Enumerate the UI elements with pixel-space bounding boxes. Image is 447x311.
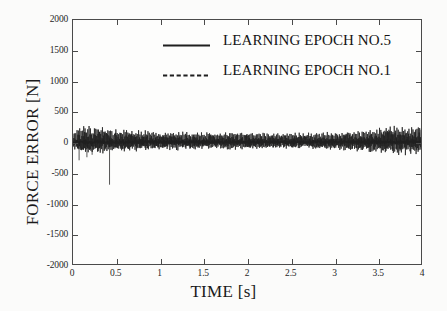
x-tick-label: 2 <box>245 268 250 278</box>
axis-tick-mark <box>73 51 78 52</box>
plot-area <box>72 19 422 265</box>
axis-tick-mark <box>416 174 421 175</box>
dashed-line-swatch-icon <box>163 74 210 77</box>
y-tick-label: -1500 <box>47 229 68 239</box>
x-tick-label: 0.5 <box>110 268 121 278</box>
axis-tick-mark <box>292 259 293 264</box>
x-tick-label: 3 <box>332 268 337 278</box>
axis-tick-mark <box>416 205 421 206</box>
axis-tick-mark <box>204 259 205 264</box>
y-axis-title: FORCE ERROR [N] <box>23 52 43 252</box>
axis-tick-mark <box>416 112 421 113</box>
axis-tick-mark <box>161 259 162 264</box>
axis-tick-mark <box>416 51 421 52</box>
x-tick-label: 2.5 <box>285 268 296 278</box>
x-tick-label: 0 <box>70 268 75 278</box>
series-canvas <box>73 20 421 264</box>
y-tick-label: 2000 <box>50 14 68 24</box>
axis-tick-mark <box>336 259 337 264</box>
series-learning-epoch-no-5 <box>73 141 421 143</box>
axis-tick-mark <box>73 82 78 83</box>
x-tick-label: 3.5 <box>373 268 384 278</box>
axis-tick-mark <box>416 143 421 144</box>
series-learning-epoch-no-1 <box>73 126 421 185</box>
axis-tick-mark <box>204 20 205 25</box>
y-tick-label: -500 <box>51 168 68 178</box>
line-path-epoch-5 <box>73 141 421 143</box>
axis-tick-mark <box>292 20 293 25</box>
axis-tick-mark <box>73 174 78 175</box>
y-tick-label: -2000 <box>47 260 68 270</box>
y-tick-label: 0 <box>63 137 68 147</box>
axis-tick-mark <box>416 235 421 236</box>
axis-tick-mark <box>117 20 118 25</box>
legend-label-epoch-5: LEARNING EPOCH NO.5 <box>223 32 391 49</box>
force-error-figure: FORCE ERROR [N] 2000150010005000-500-100… <box>0 0 447 311</box>
axis-tick-mark <box>336 20 337 25</box>
axis-tick-mark <box>416 82 421 83</box>
x-tick-label: 1.5 <box>198 268 209 278</box>
axis-tick-mark <box>73 143 78 144</box>
y-tick-label: 1000 <box>50 76 68 86</box>
axis-tick-mark <box>248 259 249 264</box>
legend-label-epoch-1: LEARNING EPOCH NO.1 <box>223 62 391 79</box>
x-axis-title: TIME [s] <box>0 282 447 302</box>
y-tick-label: 500 <box>54 106 68 116</box>
y-tick-label: 1500 <box>50 45 68 55</box>
line-path-epoch-1 <box>73 126 421 185</box>
axis-tick-mark <box>73 112 78 113</box>
axis-tick-mark <box>73 235 78 236</box>
axis-tick-mark <box>117 259 118 264</box>
x-tick-label: 1 <box>157 268 162 278</box>
y-tick-label: -1000 <box>47 199 68 209</box>
x-tick-label: 4 <box>420 268 425 278</box>
axis-tick-mark <box>248 20 249 25</box>
axis-tick-mark <box>379 259 380 264</box>
axis-tick-mark <box>379 20 380 25</box>
axis-tick-mark <box>161 20 162 25</box>
axis-tick-mark <box>73 205 78 206</box>
solid-line-swatch-icon <box>163 44 210 47</box>
